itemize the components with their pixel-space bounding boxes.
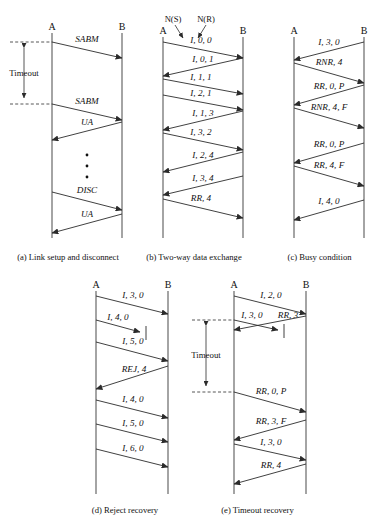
panel-a-svg: A B Timeout SABM SABM UA DISC UA <box>0 0 130 250</box>
message-label: I, 5, 0 <box>121 336 144 346</box>
node-label-d-left: A <box>92 279 100 290</box>
message-label: I, 4, 0 <box>317 196 340 206</box>
message-label: SABM <box>75 34 100 44</box>
message-label: UA <box>81 117 94 127</box>
message-label: RR, 4 <box>190 193 212 203</box>
node-label-c-left: A <box>290 25 298 36</box>
panel-b-svg: N(S) N(R) A B I, 0, 0 I, 0, 1 I, 1, 1 I,… <box>128 0 258 250</box>
node-label-c-right: B <box>361 25 368 36</box>
panel-c-svg: A B I, 3, 0 RNR, 4 RR, 0, P RNR, 4, F RR… <box>256 0 385 250</box>
message-label: I, 1, 3 <box>191 108 214 118</box>
panel-a-link-setup: A B Timeout SABM SABM UA DISC UA <box>0 0 130 250</box>
message-label: I, 3, 4 <box>191 173 214 183</box>
message-label: RR, 0, P <box>313 81 345 91</box>
message-label: RR, 3, F <box>255 416 287 426</box>
panel-c-busy-condition: A B I, 3, 0 RNR, 4 RR, 0, P RNR, 4, F RR… <box>256 0 385 250</box>
message-label: UA <box>81 209 94 219</box>
message-label: REJ, 4 <box>121 364 147 374</box>
message-label: RR, 3 <box>277 310 299 320</box>
panel-d-svg: A B I, 3, 0 I, 4, 0 I, 5, 0 REJ, 4 I, 4,… <box>58 272 193 504</box>
message-label: I, 2, 0 <box>259 290 282 300</box>
message-label: I, 4, 0 <box>121 394 144 404</box>
message-label: I, 1, 1 <box>189 72 211 82</box>
caption-panel-c: (c) Busy condition <box>254 252 385 262</box>
message-label: I, 5, 0 <box>121 418 144 428</box>
caption-panel-d: (d) Reject recovery <box>55 505 195 515</box>
node-label-e-right: B <box>303 279 310 290</box>
panel-d-reject-recovery: A B I, 3, 0 I, 4, 0 I, 5, 0 REJ, 4 I, 4,… <box>58 272 193 504</box>
message-label: RR, 4 <box>260 460 282 470</box>
message-label: DISC <box>76 185 98 195</box>
caption-panel-a: (a) Link setup and disconnect <box>0 252 136 262</box>
message-label: I, 4, 0 <box>106 312 129 322</box>
node-label-e-left: A <box>230 279 238 290</box>
message-label: SABM <box>75 96 100 106</box>
message-label: I, 6, 0 <box>121 443 144 453</box>
panel-e-timeout-recovery: A B I, 2, 0 Timeout I, 3, 0 RR, 3 RR, 0,… <box>186 272 331 504</box>
message-label: RNR, 4, F <box>310 102 348 112</box>
ellipsis-dot <box>86 154 89 157</box>
ellipsis-dot <box>86 165 89 168</box>
message-label: RR, 0, P <box>255 386 287 396</box>
caption-panel-b: (b) Two-way data exchange <box>126 252 262 262</box>
message-label: RNR, 4 <box>315 57 343 67</box>
node-label-a-left: A <box>48 21 56 32</box>
caption-panel-e: (e) Timeout recovery <box>185 505 330 515</box>
message-label: I, 3, 2 <box>189 127 212 137</box>
message-label: I, 3, 0 <box>259 437 282 447</box>
annotation-nr-label: N(R) <box>197 14 215 24</box>
annotation-ns-arrow <box>175 25 183 38</box>
node-label-b-right: B <box>240 25 247 36</box>
node-label-a-right: B <box>119 21 126 32</box>
message-label: I, 2, 1 <box>189 88 211 98</box>
message-label: I, 3, 0 <box>121 290 144 300</box>
message-label: RR, 4, F <box>313 160 345 170</box>
message-label: I, 0, 0 <box>189 35 212 45</box>
panel-e-svg: A B I, 2, 0 Timeout I, 3, 0 RR, 3 RR, 0,… <box>186 272 331 504</box>
ellipsis-dot <box>86 176 89 179</box>
message-label: I, 2, 4 <box>191 150 214 160</box>
message-label: I, 3, 0 <box>317 37 340 47</box>
panel-b-two-way-data: N(S) N(R) A B I, 0, 0 I, 0, 1 I, 1, 1 I,… <box>128 0 258 250</box>
message-label: RR, 0, P <box>313 139 345 149</box>
message-label: I, 0, 1 <box>191 54 213 64</box>
message-label: I, 3, 0 <box>240 310 263 320</box>
node-label-d-right: B <box>165 279 172 290</box>
annotation-ns-label: N(S) <box>165 14 182 24</box>
message-arrow <box>52 42 122 58</box>
node-label-b-left: A <box>159 25 167 36</box>
timeout-label-a: Timeout <box>9 68 39 78</box>
timeout-label-e: Timeout <box>191 350 221 360</box>
